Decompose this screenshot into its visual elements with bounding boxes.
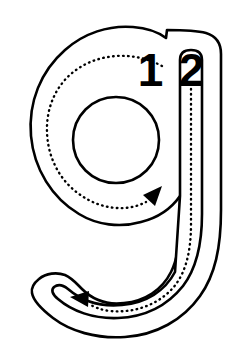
stroke-number-1: 1 — [138, 44, 163, 96]
letter-g-outline-graphic: 1 2 — [0, 0, 237, 361]
letter-tracing-worksheet: 1 2 — [0, 0, 237, 361]
stroke-number-2: 2 — [179, 44, 204, 96]
